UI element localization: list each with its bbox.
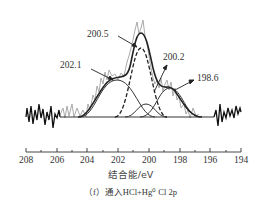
x-tick-194: 194 xyxy=(234,155,248,165)
x-tick-202: 202 xyxy=(111,155,125,165)
component-202-1 xyxy=(80,80,155,117)
peak-label-198-6: 198.6 xyxy=(197,73,218,83)
raw-spectrum-left xyxy=(26,104,60,128)
peak-label-200-5: 200.5 xyxy=(87,29,108,39)
x-axis-label: 结合能/eV xyxy=(0,167,261,181)
x-tick-198: 198 xyxy=(173,155,187,165)
x-tick-200: 200 xyxy=(142,155,156,165)
peak-label-202-1: 202.1 xyxy=(60,60,81,70)
x-tick-196: 196 xyxy=(203,155,217,165)
x-tick-208: 208 xyxy=(19,155,33,165)
x-axis xyxy=(26,148,241,152)
peak-label-200-2: 200.2 xyxy=(163,52,184,62)
raw-spectrum-right xyxy=(214,104,241,126)
x-tick-204: 204 xyxy=(80,155,94,165)
xps-chart xyxy=(0,0,261,215)
figure-caption: （f）通入HCl+Hg⁰ Cl 2p xyxy=(0,185,261,197)
x-tick-206: 206 xyxy=(50,155,64,165)
